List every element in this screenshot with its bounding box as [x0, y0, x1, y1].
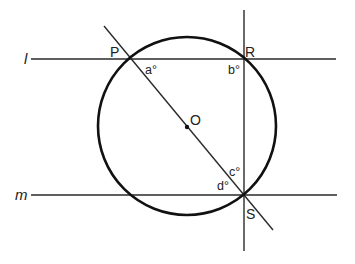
angle-label-c: c°: [229, 165, 240, 179]
point-label-o: O: [190, 112, 201, 128]
point-label-p: P: [110, 44, 119, 60]
point-label-s: S: [246, 206, 255, 222]
geometry-figure: l m P R S O a° b° c° d°: [0, 0, 355, 264]
center-point-o: [185, 125, 189, 129]
line-label-m: m: [15, 186, 28, 203]
angle-label-b: b°: [228, 63, 240, 77]
angle-label-d: d°: [217, 179, 229, 193]
angle-label-a: a°: [145, 63, 157, 77]
point-label-r: R: [245, 44, 255, 60]
line-label-l: l: [24, 50, 28, 67]
